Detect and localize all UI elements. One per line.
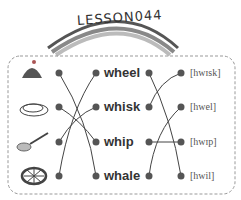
phonetic-hwisk: [hwɪsk] <box>190 67 221 78</box>
word-whip: whip <box>104 134 134 149</box>
word-whale: whale <box>104 168 140 183</box>
whip-icon <box>20 104 48 116</box>
word-wheel: wheel <box>104 65 140 80</box>
right-match-lines <box>149 73 181 176</box>
rainbow-icon <box>48 22 178 56</box>
wheel-icon <box>22 168 46 184</box>
phonetic-hwil: [hwil] <box>190 170 214 181</box>
whale-icon <box>22 60 42 78</box>
phonetic-hwel: [hwel] <box>190 101 216 112</box>
left-match-lines <box>59 73 96 176</box>
whisk-icon <box>17 133 48 151</box>
phonetic-hwip: [hwɪp] <box>190 136 217 147</box>
word-whisk: whisk <box>104 99 140 114</box>
lesson-title: LESSON044 <box>76 7 163 28</box>
match-dots <box>56 70 185 180</box>
